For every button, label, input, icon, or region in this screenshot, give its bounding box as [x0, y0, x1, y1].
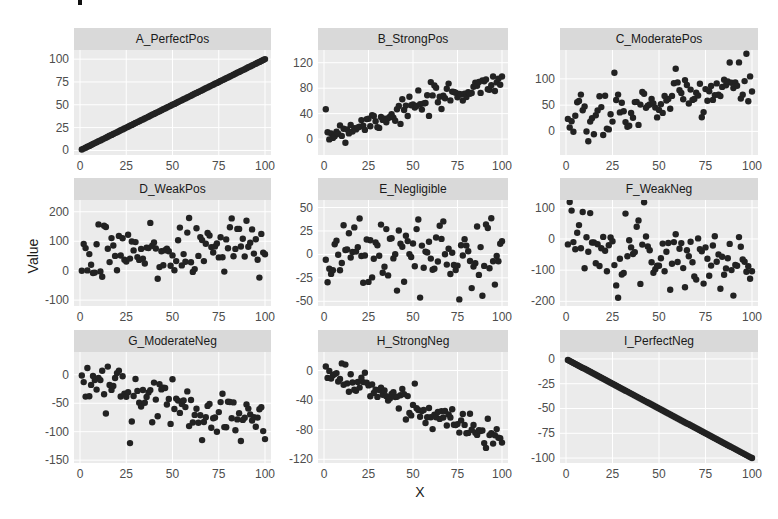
x-tick-label: 100	[250, 310, 280, 324]
y-tick-label: 25	[273, 224, 313, 238]
y-tick-label: -100	[29, 293, 69, 307]
x-tick-label: 75	[691, 159, 721, 173]
plot-area	[74, 50, 271, 155]
x-tick-label: 50	[398, 467, 428, 481]
y-tick-label: 0	[515, 232, 555, 246]
y-tick-label: -50	[273, 294, 313, 308]
y-tick-label: 0	[29, 143, 69, 157]
x-tick-label: 75	[443, 310, 473, 324]
x-tick-label: 75	[443, 467, 473, 481]
y-tick-label: 0	[273, 364, 313, 378]
facet-strip-label: D_WeakPos	[74, 178, 271, 200]
x-tick-label: 50	[644, 310, 674, 324]
y-tick-label: -50	[515, 401, 555, 415]
y-tick-label: 25	[29, 121, 69, 135]
y-tick-label: 80	[273, 81, 313, 95]
x-tick-label: 25	[598, 467, 628, 481]
x-tick-label: 50	[158, 310, 188, 324]
y-tick-label: -200	[515, 294, 555, 308]
x-tick-label: 25	[111, 467, 141, 481]
y-tick-label: 100	[515, 201, 555, 215]
x-tick-label: 75	[204, 159, 234, 173]
x-tick-label: 50	[644, 467, 674, 481]
x-tick-label: 25	[598, 310, 628, 324]
x-tick-label: 100	[487, 159, 517, 173]
y-tick-label: -25	[273, 271, 313, 285]
x-tick-label: 25	[111, 310, 141, 324]
facet-strip-label: B_StrongPos	[318, 28, 508, 50]
y-tick-label: -100	[515, 451, 555, 465]
x-tick-label: 25	[111, 159, 141, 173]
y-tick-label: -40	[273, 393, 313, 407]
plot-area	[318, 200, 508, 306]
x-tick-label: 0	[309, 310, 339, 324]
x-tick-label: 0	[65, 467, 95, 481]
x-tick-label: 25	[354, 159, 384, 173]
x-tick-label: 75	[204, 467, 234, 481]
facet-strip-label: E_Negligible	[318, 178, 508, 200]
x-tick-label: 50	[398, 159, 428, 173]
x-tick-label: 50	[644, 159, 674, 173]
x-tick-label: 0	[65, 310, 95, 324]
y-tick-label: 0	[515, 352, 555, 366]
y-tick-label: -100	[29, 425, 69, 439]
x-tick-label: 0	[309, 159, 339, 173]
plot-area	[318, 352, 508, 463]
facet-strip-label: F_WeakNeg	[560, 178, 758, 200]
x-tick-label: 100	[737, 467, 767, 481]
y-tick-label: 50	[29, 98, 69, 112]
x-tick-label: 0	[551, 159, 581, 173]
x-axis-label: X	[410, 484, 430, 500]
x-tick-label: 100	[250, 159, 280, 173]
y-tick-label: -120	[273, 452, 313, 466]
y-tick-label: 0	[29, 368, 69, 382]
x-tick-label: 50	[158, 467, 188, 481]
y-tick-label: -50	[29, 396, 69, 410]
x-tick-label: 100	[737, 159, 767, 173]
y-tick-label: 100	[29, 52, 69, 66]
x-tick-label: 100	[487, 310, 517, 324]
facet-strip-label: A_PerfectPos	[74, 28, 271, 50]
x-tick-label: 75	[691, 310, 721, 324]
x-tick-label: 0	[551, 467, 581, 481]
y-tick-label: -75	[515, 426, 555, 440]
facet-strip-label: H_StrongNeg	[318, 330, 508, 352]
x-tick-label: 100	[737, 310, 767, 324]
y-tick-label: 50	[515, 98, 555, 112]
y-tick-label: 75	[29, 75, 69, 89]
y-tick-label: -100	[515, 263, 555, 277]
plot-area	[560, 50, 758, 155]
plot-area	[560, 352, 758, 463]
y-axis-label: Value	[25, 231, 41, 281]
x-tick-label: 0	[309, 467, 339, 481]
facet-strip-label: G_ModerateNeg	[74, 330, 271, 352]
y-tick-label: 50	[273, 201, 313, 215]
y-tick-label: 120	[273, 56, 313, 70]
x-tick-label: 50	[398, 310, 428, 324]
x-tick-label: 100	[487, 467, 517, 481]
x-tick-label: 75	[204, 310, 234, 324]
x-tick-label: 25	[354, 467, 384, 481]
x-tick-label: 75	[443, 159, 473, 173]
plot-area	[560, 200, 758, 306]
title-fragment	[78, 0, 82, 5]
facet-strip-label: C_ModeratePos	[560, 28, 758, 50]
facet-strip-label: I_PerfectNeg	[560, 330, 758, 352]
y-tick-label: 0	[515, 124, 555, 138]
plot-area	[318, 50, 508, 155]
plot-area	[74, 200, 271, 306]
x-tick-label: 25	[598, 159, 628, 173]
y-tick-label: -25	[515, 377, 555, 391]
plot-area	[74, 352, 271, 463]
y-tick-label: 40	[273, 107, 313, 121]
y-tick-label: 100	[515, 72, 555, 86]
x-tick-label: 25	[354, 310, 384, 324]
x-tick-label: 100	[250, 467, 280, 481]
y-tick-label: 0	[273, 132, 313, 146]
x-tick-label: 50	[158, 159, 188, 173]
x-tick-label: 0	[551, 310, 581, 324]
x-tick-label: 75	[691, 467, 721, 481]
y-tick-label: 200	[29, 205, 69, 219]
y-tick-label: -150	[29, 453, 69, 467]
x-tick-label: 0	[65, 159, 95, 173]
